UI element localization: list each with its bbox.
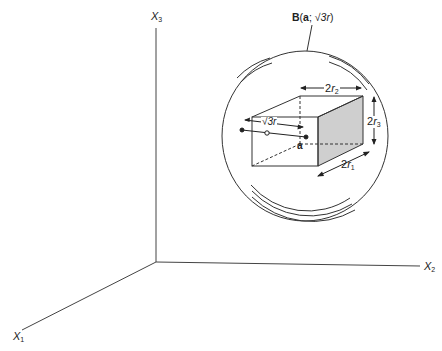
motion-arc <box>252 197 355 221</box>
motion-arc <box>252 191 352 216</box>
endpoint-dot <box>240 128 244 132</box>
ball-label-leader <box>307 25 312 51</box>
endpoint-dot <box>304 135 308 139</box>
motion-arc <box>241 63 272 82</box>
axis-x1 <box>22 262 156 330</box>
hidden-edge <box>252 144 300 166</box>
diag-label: √3r <box>261 117 277 127</box>
motion-arc <box>329 56 369 84</box>
axis-x1-label: X1 <box>13 331 24 343</box>
center-a-label: a <box>297 141 303 151</box>
dim-label-r2: 2r2 <box>324 83 340 95</box>
dim-label-r1: 2r1 <box>341 159 355 171</box>
axis-x2-label: X2 <box>424 261 435 273</box>
midpoint-open-dot <box>265 131 269 135</box>
diagram-canvas <box>0 0 442 351</box>
dim-label-r3: 2r3 <box>366 116 382 128</box>
motion-arc <box>251 185 350 211</box>
ball-label: B(a; √3r) <box>292 12 333 23</box>
axis-x2 <box>156 262 420 266</box>
axis-x3-label: X3 <box>151 11 162 23</box>
